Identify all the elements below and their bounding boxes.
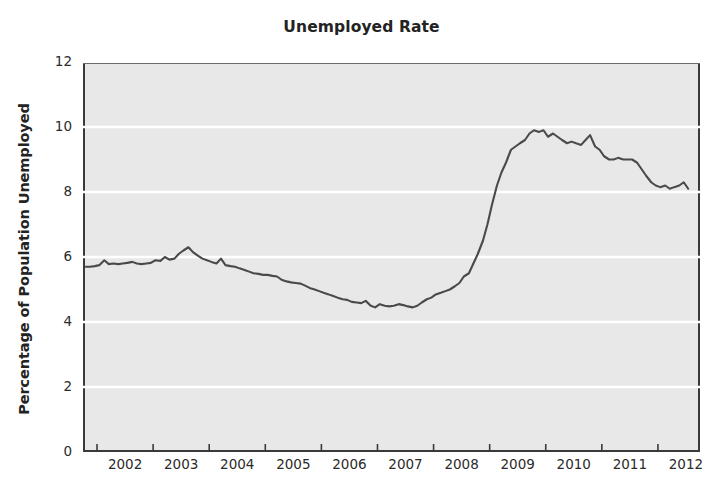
y-tick-label: 12 [32,53,72,69]
x-tick-label: 2012 [651,456,721,472]
gridlines [83,62,700,387]
y-axis-label: Percentage of Population Unemployed [16,59,32,459]
plot-canvas [83,62,700,452]
data-series-group [86,130,688,307]
y-tick-label: 4 [32,313,72,329]
y-tick-label: 2 [32,378,72,394]
y-tick-label: 6 [32,248,72,264]
plot-area [83,62,700,452]
y-tick-label: 0 [32,443,72,459]
y-tick-label: 8 [32,183,72,199]
chart-title: Unemployed Rate [0,18,723,36]
x-axis-tick-marks [97,444,658,452]
data-line [86,130,688,307]
y-tick-label: 10 [32,118,72,134]
chart-figure: Unemployed Rate Percentage of Population… [0,0,723,483]
